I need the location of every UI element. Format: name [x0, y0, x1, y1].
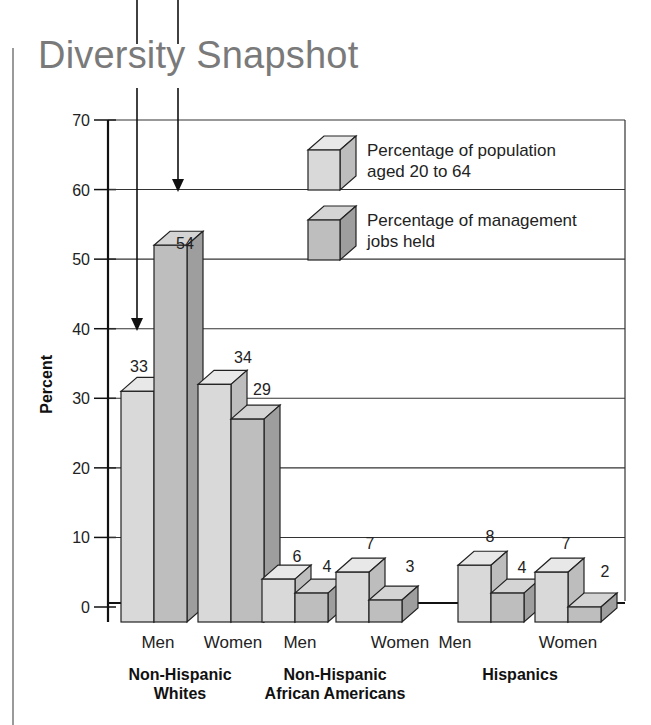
x-category-label: Men	[438, 633, 471, 652]
legend-item-population: Percentage of populationaged 20 to 64	[308, 136, 556, 190]
management-value-label: 2	[601, 563, 610, 580]
population-bar-front	[262, 579, 295, 622]
management-value-label: 4	[518, 559, 527, 576]
population-bar-front	[458, 565, 491, 622]
bars: 3354342964738472	[121, 231, 617, 622]
x-category-label: Women	[204, 633, 262, 652]
management-bar-front	[568, 607, 601, 622]
population-bar-front	[198, 384, 231, 622]
management-bar-front	[295, 593, 328, 622]
legend-item-management: Percentage of managementjobs held	[308, 206, 577, 260]
management-bar-front	[369, 600, 402, 622]
y-tick-label: 40	[72, 321, 90, 338]
x-category-label: Women	[371, 633, 429, 652]
population-value-label: 8	[486, 528, 495, 545]
legend-swatch-front	[308, 220, 340, 260]
legend-swatch-front	[308, 150, 340, 190]
y-axis-label: Percent	[38, 354, 55, 413]
y-tick-label: 70	[72, 112, 90, 129]
management-value-label: 29	[253, 381, 271, 398]
y-tick-label: 20	[72, 460, 90, 477]
legend-label: Percentage of population	[367, 141, 556, 160]
legend-label: jobs held	[366, 232, 435, 251]
management-bar-front	[154, 245, 187, 622]
bar-chart: 010203040506070PercentPercentage of popu…	[0, 0, 651, 725]
y-tick-label: 60	[72, 182, 90, 199]
x-group-label: Hispanics	[482, 666, 558, 683]
y-tick-label: 10	[72, 529, 90, 546]
x-category-label: Men	[141, 633, 174, 652]
y-tick-label: 30	[72, 390, 90, 407]
x-group-label: Non-Hispanic	[128, 666, 231, 683]
population-bar-front	[336, 572, 369, 622]
management-bar-front	[231, 419, 264, 622]
population-value-label: 33	[130, 358, 148, 375]
management-value-label: 3	[406, 558, 415, 575]
population-value-label: 34	[234, 349, 252, 366]
x-group-label: African Americans	[265, 685, 406, 702]
management-value-label: 54	[176, 235, 194, 252]
bar-pair: 84	[458, 528, 540, 622]
legend-label: aged 20 to 64	[367, 162, 471, 181]
bar-pair: 3354	[121, 231, 203, 622]
population-bar-front	[121, 391, 154, 622]
population-value-label: 7	[366, 535, 375, 552]
x-category-label: Men	[283, 633, 316, 652]
management-bar-front	[491, 593, 524, 622]
y-tick-label: 50	[72, 251, 90, 268]
x-group-label: Non-Hispanic	[283, 666, 386, 683]
bar-pair: 72	[535, 535, 617, 622]
bar-pair: 73	[336, 535, 418, 622]
population-bar-front	[535, 572, 568, 622]
management-value-label: 4	[323, 558, 332, 575]
x-category-label: Women	[539, 633, 597, 652]
y-tick-label: 0	[81, 599, 90, 616]
population-value-label: 7	[562, 535, 571, 552]
legend-label: Percentage of management	[367, 211, 577, 230]
population-value-label: 6	[293, 548, 302, 565]
x-group-label: Whites	[154, 685, 207, 702]
